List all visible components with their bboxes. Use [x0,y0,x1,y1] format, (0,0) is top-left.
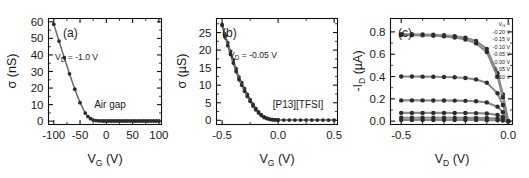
data-point [474,111,478,115]
data-point [453,75,457,79]
data-point [453,111,457,115]
data-point [304,118,308,122]
data-point [310,118,314,122]
panel-c-xtick-labels: -0.50.0 [391,129,516,141]
data-point [453,118,457,122]
panel-a-vd-value: = -1.0 V [65,52,98,62]
panel-b-plot: 0510152025 -0.50.00.5 (b) VD = -0.05 V [… [176,0,352,178]
data-point [332,118,336,122]
data-point [299,118,303,122]
data-point [474,99,478,103]
y-tick-label: 25 [199,27,212,39]
data-point [234,70,238,74]
data-point [463,76,467,80]
data-point [442,111,446,115]
data-point [226,44,230,48]
data-point [506,119,510,123]
y-tick-label: 0.8 [370,26,386,38]
data-point [276,118,280,122]
data-point [431,34,435,38]
panel-c: 0.00.20.40.60.8 -0.50.0 (c) VG = -0.20 V… [352,0,529,178]
data-point [431,98,435,102]
panel-a-ylabel: σ (nS) [5,54,19,89]
panel-b-xtick-labels: -0.50.00.5 [212,129,342,141]
y-tick-label: 10 [31,99,44,111]
x-tick-label: -100 [42,129,65,141]
x-tick-label: 0.0 [500,129,516,141]
data-point [431,111,435,115]
data-point [52,22,56,26]
panel-a-xtick-labels: -100-50050100 [42,129,168,141]
legend-entry-2: -0.10 V [493,44,511,50]
data-point [442,75,446,79]
data-point [474,41,478,45]
y-tick-label: 0.2 [370,93,386,105]
data-point [453,98,457,102]
data-point [321,118,325,122]
data-point [495,104,499,108]
data-point [245,95,249,99]
data-point [399,74,403,78]
panel-c-xlabel: VD (V) [435,152,470,168]
x-tick-label: 0 [103,129,109,141]
y-tick-label: 40 [31,49,44,61]
data-point [501,110,505,114]
data-point [410,111,414,115]
data-point [293,118,297,122]
panel-c-plot: 0.00.20.40.60.8 -0.50.0 (c) VG = -0.20 V… [352,0,529,178]
data-point [463,118,467,122]
data-point [485,50,489,54]
panel-b-xlabel: VG (V) [259,152,294,168]
panel-c-ylabel-symbol: -I [352,84,365,92]
data-point [240,83,244,87]
data-point [474,118,478,122]
panel-a-xlabel-unit: (V) [106,152,123,166]
y-tick-label: 20 [31,82,44,94]
panel-a-ytick-labels: 0102030405060 [31,16,44,127]
data-point [57,39,61,43]
panel-b-sample-annotation: [P13][TFSI] [273,99,324,110]
y-tick-label: 0 [37,115,43,127]
figure-root: 0102030405060 -100-50050100 (a) VD = -1.… [0,0,529,178]
panel-c-xlabel-unit: (V) [453,152,470,166]
y-tick-label: 10 [199,79,212,91]
panel-c-ylabel-unit: (µA) [352,50,365,74]
data-point [315,118,319,122]
data-point [157,119,161,123]
svg-text:σ (µS): σ (µS) [176,53,189,88]
data-point [410,74,414,78]
y-tick-label: 0 [205,114,211,126]
x-tick-label: -0.5 [212,129,232,141]
data-point [495,118,499,122]
data-point [453,35,457,39]
svg-text:-ID (µA): -ID (µA) [352,50,367,91]
panel-a-vd-annotation: VD = -1.0 V [55,52,98,63]
panel-a-ylabel-unit: (nS) [5,54,19,78]
x-tick-label: -50 [72,129,89,141]
data-point [399,111,403,115]
panel-b-label: (b) [222,26,237,40]
data-point [474,77,478,81]
legend-entry-6: 0.10 V [494,74,510,80]
y-tick-label: 30 [31,66,44,78]
y-tick-label: 60 [31,16,44,28]
panel-a-label: (a) [63,26,78,40]
data-point [442,98,446,102]
legend-header: VG = [499,21,510,28]
data-point [420,118,424,122]
panel-b-vd-value: = -0.05 V [239,50,277,60]
data-point [463,37,467,41]
panel-a-xlabel-subscript: G [96,158,103,168]
legend-entry-5: 0.05 V [494,66,510,72]
data-point [78,101,82,105]
data-point [254,108,258,112]
x-tick-label: 0.5 [326,129,342,141]
data-point [501,118,505,122]
data-point [420,74,424,78]
data-point [257,111,261,115]
svg-text:VG (V): VG (V) [87,152,122,168]
data-point [463,111,467,115]
data-point [501,103,505,107]
legend-entry-4: 0.00 V [494,59,510,65]
panel-c-label: (c) [398,26,412,40]
